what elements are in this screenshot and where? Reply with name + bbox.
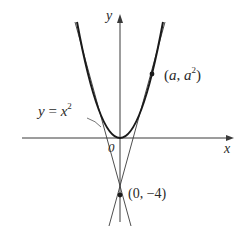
external-point-dot <box>118 193 123 198</box>
curve-eq: = <box>45 103 61 119</box>
tangent-point-dot <box>150 72 155 77</box>
curve-lhs: y <box>38 103 45 119</box>
external-point-label: (0, −4) <box>128 186 166 202</box>
coord-a: a <box>169 67 177 83</box>
paren-close: ) <box>196 67 201 83</box>
coord-a-squared: a <box>184 67 192 83</box>
label-pointer <box>87 118 101 127</box>
curve-equation-label: y = x2 <box>38 102 72 120</box>
coord-sep: , <box>177 67 185 83</box>
curve-exponent: 2 <box>67 101 72 111</box>
x-axis-label: x <box>224 141 230 157</box>
diagram-canvas <box>0 0 240 237</box>
coord-exponent: 2 <box>192 65 197 75</box>
y-axis-label: y <box>106 8 112 24</box>
origin-label: 0 <box>108 140 115 156</box>
y-axis-arrow-icon <box>117 14 123 23</box>
tangent-point-label: (a, a2) <box>164 66 201 84</box>
